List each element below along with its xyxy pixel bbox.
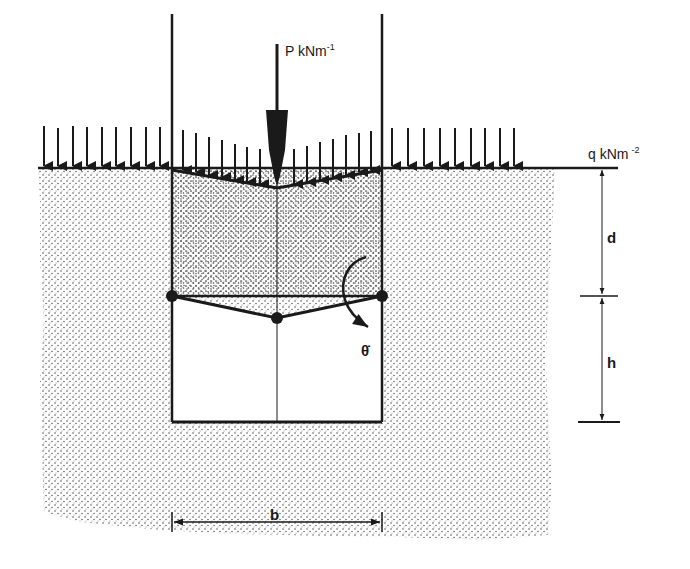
hinge-right	[376, 290, 388, 302]
dimension-b-label: b	[270, 506, 279, 523]
hinge-left	[166, 290, 178, 302]
dimension-h-label: h	[607, 354, 616, 371]
surcharge-arrows-right	[392, 128, 514, 166]
point-load-arrow	[266, 44, 288, 186]
dimension-d-label: d	[607, 229, 616, 246]
collapse-mechanism-diagram: P kNm-1 q kNm-2 θ̇ d h b	[0, 0, 690, 569]
surcharge-label: q kNm-2	[588, 145, 639, 162]
dimension-d-h	[578, 168, 620, 422]
hinge-center	[271, 312, 283, 324]
surcharge-arrows-left	[44, 126, 160, 166]
point-load-label: P kNm-1	[285, 42, 335, 59]
